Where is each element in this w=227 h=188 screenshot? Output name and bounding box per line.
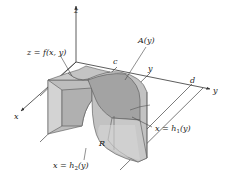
h1-label: x = h1(y) <box>155 124 191 134</box>
x-axis-label: x <box>14 112 19 121</box>
c-label: c <box>113 57 118 66</box>
y-tick-label: y <box>147 64 153 73</box>
y-axis-label: y <box>212 86 218 95</box>
iterated-integral-diagram: z y x z = f(x, y) A(y) c y d R x = h1(y)… <box>0 0 227 188</box>
surface-label: z = f(x, y) <box>26 48 66 57</box>
area-label: A(y) <box>137 36 155 45</box>
region-label: R <box>98 139 105 148</box>
d-label: d <box>190 76 195 85</box>
h2-label: x = h2(y) <box>53 161 89 171</box>
z-axis-label: z <box>73 6 79 15</box>
